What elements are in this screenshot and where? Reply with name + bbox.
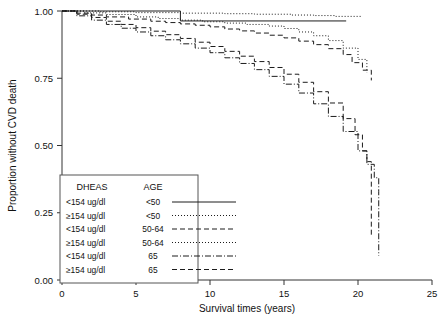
y-tick-label: 0.75 [35, 73, 54, 84]
legend-dheas-4: <154 ug/dl [66, 251, 105, 261]
x-tick-label: 10 [205, 288, 216, 299]
legend-header-dheas: DHEAS [76, 182, 107, 192]
legend-age-3: 50-64 [142, 238, 164, 248]
legend-dheas-1: ≥154 ug/dl [66, 211, 105, 221]
y-axis-title: Proportion without CVD death [7, 79, 18, 211]
y-tick-label: 0.25 [35, 207, 54, 218]
x-tick-label: 20 [353, 288, 364, 299]
legend-age-0: <50 [146, 197, 161, 207]
legend-dheas-5: ≥154 ug/dl [66, 265, 105, 275]
legend-age-4: 65 [148, 251, 158, 261]
x-axis-title: Survival times (years) [199, 303, 295, 314]
legend-age-5: 65 [148, 265, 158, 275]
x-tick-label: 25 [427, 288, 438, 299]
x-tick-label: 5 [133, 288, 138, 299]
y-tick-label: 0.00 [35, 275, 54, 286]
x-tick-label: 0 [59, 288, 64, 299]
plot-svg: 0.000.250.500.751.000510152025Survival t… [0, 0, 444, 328]
survival-curve-chart: 0.000.250.500.751.000510152025Survival t… [0, 0, 444, 328]
legend-age-1: <50 [146, 211, 161, 221]
curve-series-0 [62, 11, 346, 21]
curve-series-3 [62, 11, 367, 72]
legend-dheas-0: <154 ug/dl [66, 197, 105, 207]
legend-header-age: AGE [143, 182, 162, 192]
y-tick-label: 1.00 [35, 6, 54, 17]
x-tick-label: 15 [279, 288, 290, 299]
legend-dheas-3: ≥154 ug/dl [66, 238, 105, 248]
y-tick-label: 0.50 [35, 140, 54, 151]
legend-age-2: 50-64 [142, 224, 164, 234]
legend-dheas-2: <154 ug/dl [66, 224, 105, 234]
